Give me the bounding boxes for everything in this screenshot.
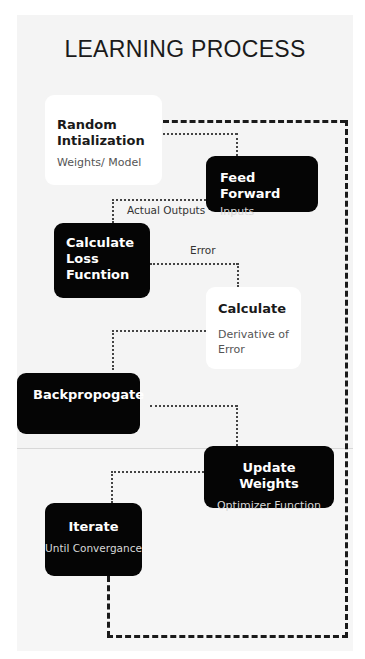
node-title: Random [57, 117, 150, 133]
edge-label-actual-outputs: Actual Outputs [127, 204, 205, 216]
node-title: Backpropogate [33, 387, 128, 403]
node-random-initialization: Random Intialization Weights/ Model [45, 95, 162, 185]
node-calculate-derivative: Calculate Derivative of Error [206, 287, 301, 369]
node-calculate-loss-function: Calculate Loss Fucntion [54, 223, 150, 298]
node-title: Iterate [45, 519, 142, 535]
node-title: Update Weights [216, 460, 322, 492]
node-subtitle: Inputs [220, 204, 306, 219]
node-title: Feed Forward [220, 170, 306, 202]
loop-line-bottom [107, 635, 348, 638]
node-subtitle: Error [218, 342, 289, 357]
connector-backprop-update-h [150, 405, 237, 407]
connector-calc-backprop-v [112, 330, 114, 370]
connector-feed-loss-v [112, 199, 114, 223]
connector-backprop-update-v [236, 405, 238, 446]
node-subtitle: Until Convergance [45, 541, 142, 556]
connector-init-feed-v [236, 133, 238, 156]
connector-loss-calc-v [237, 263, 239, 287]
connector-loss-calc-h [150, 263, 238, 265]
connector-update-iterate-h [111, 471, 204, 473]
diagram-title: LEARNING PROCESS [17, 36, 353, 63]
connector-feed-loss-h [112, 199, 206, 201]
node-update-weights: Update Weights Optimizer Function [204, 446, 334, 508]
node-title: Intialization [57, 133, 150, 149]
connector-update-iterate-v [111, 471, 113, 503]
node-backpropogate: Backpropogate [17, 373, 140, 434]
connector-init-feed-h [163, 133, 237, 135]
loop-line-right [345, 120, 348, 638]
node-subtitle: Weights/ Model [57, 155, 150, 170]
node-iterate: Iterate Until Convergance [45, 503, 142, 576]
node-subtitle: Optimizer Function [216, 498, 322, 513]
node-title: Loss [66, 251, 138, 267]
node-title: Fucntion [66, 267, 138, 283]
edge-label-error: Error [190, 244, 216, 256]
node-title: Calculate [218, 301, 289, 317]
node-feed-forward: Feed Forward Inputs [206, 156, 318, 212]
loop-line-top [163, 120, 346, 123]
node-subtitle: Derivative of [218, 327, 289, 342]
connector-calc-backprop-h [112, 330, 206, 332]
loop-line-left [107, 576, 110, 637]
node-title: Calculate [66, 235, 138, 251]
